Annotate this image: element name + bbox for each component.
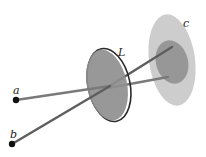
diagram-canvas: a b L c [0,0,206,157]
ray-b [12,86,110,144]
lens-disc [80,46,134,125]
label-a: a [13,84,20,97]
lens-diagram: a b L c [0,0,206,157]
point-a-dot [13,97,19,103]
label-plane: c [183,17,189,30]
label-b: b [10,128,17,141]
label-lens: L [117,46,125,59]
point-b-dot [9,141,15,147]
